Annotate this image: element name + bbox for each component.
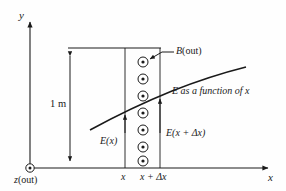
x-axis-label: x [268,172,273,183]
tick-label-x: x [121,172,125,182]
tick-label-x-plus-dx: x + Δx [140,172,167,182]
field-symbol-group [138,57,148,166]
e-at-x-label: E(x) [100,136,117,146]
e-field-curve [90,67,246,130]
field-symbol-out-of-page-icon [138,91,148,101]
physics-diagram: y x z(out) 1 m B(out) E as a function of… [0,0,286,191]
field-symbol-out-of-page-icon [138,108,148,118]
field-symbol-out-of-page-icon [138,156,148,166]
b-field-leader-arrow [150,52,174,59]
dimension-label-1m: 1 m [50,99,66,110]
b-field-label: B(out) [176,46,202,56]
z-out-label: z(out) [14,175,37,185]
field-symbol-out-of-page-icon [138,74,148,84]
e-at-x-plus-dx-label: E(x + Δx) [166,128,205,138]
z-out-label-suffix: (out) [18,174,37,185]
field-symbol-out-of-page-icon [138,125,148,135]
field-symbol-out-of-page-icon [138,142,148,152]
curve-caption-label: E as a function of x [172,86,250,96]
y-axis-label: y [19,10,24,21]
z-out-of-page-icon [26,164,34,172]
field-symbol-out-of-page-icon [138,57,148,67]
